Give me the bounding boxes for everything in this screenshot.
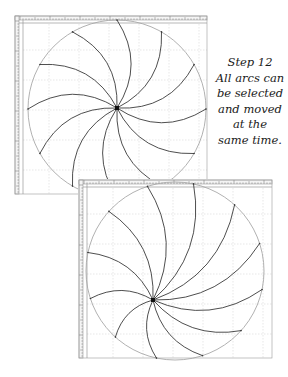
arc-endpoint-handle[interactable]: [39, 64, 41, 66]
center-node-handle[interactable]: [151, 298, 155, 302]
arc-endpoint-handle[interactable]: [116, 19, 118, 21]
caption-line: and moved: [212, 102, 288, 118]
caption-line: Step 12: [212, 55, 288, 71]
arc-endpoint-handle[interactable]: [193, 153, 195, 155]
arc-endpoint-handle[interactable]: [115, 336, 117, 338]
arc-endpoint-handle[interactable]: [259, 243, 261, 245]
center-node-handle[interactable]: [115, 106, 119, 110]
caption-line: be selected: [212, 86, 288, 102]
arc-endpoint-handle[interactable]: [193, 64, 195, 66]
arc-endpoint-handle[interactable]: [27, 108, 29, 110]
panel-background: [78, 179, 273, 359]
caption-line: at the: [212, 117, 288, 133]
arc-endpoint-handle[interactable]: [72, 31, 74, 33]
arc-endpoint-handle[interactable]: [156, 357, 158, 359]
arc-endpoint-handle[interactable]: [147, 186, 149, 188]
arc-endpoint-handle[interactable]: [240, 330, 242, 332]
drawing-panel-top: [14, 15, 208, 199]
arc-endpoint-handle[interactable]: [72, 185, 74, 187]
arc-endpoint-handle[interactable]: [234, 204, 236, 206]
step-caption: Step 12 All arcs can be selected and mov…: [212, 55, 288, 148]
arc-endpoint-handle[interactable]: [108, 211, 110, 213]
caption-line: All arcs can: [212, 71, 288, 87]
arc-endpoint-handle[interactable]: [193, 183, 195, 185]
arc-endpoint-handle[interactable]: [90, 298, 92, 300]
arc-endpoint-handle[interactable]: [87, 252, 89, 254]
arc-endpoint-handle[interactable]: [39, 153, 41, 155]
arc-endpoint-handle[interactable]: [205, 108, 207, 110]
drawing-panel-bottom: [78, 179, 273, 360]
arc-endpoint-handle[interactable]: [161, 31, 163, 33]
arc-endpoint-handle[interactable]: [261, 289, 263, 291]
arc-endpoint-handle[interactable]: [202, 355, 204, 357]
caption-line: same time.: [212, 133, 288, 149]
